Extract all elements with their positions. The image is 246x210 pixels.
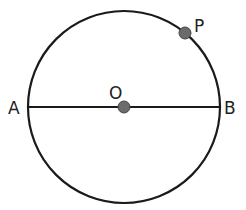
label-a: A bbox=[8, 98, 20, 118]
label-p: P bbox=[194, 16, 204, 36]
geometry-diagram: O A B P bbox=[0, 0, 246, 210]
label-b: B bbox=[224, 98, 236, 118]
label-o: O bbox=[109, 83, 122, 103]
point-p bbox=[179, 27, 191, 39]
